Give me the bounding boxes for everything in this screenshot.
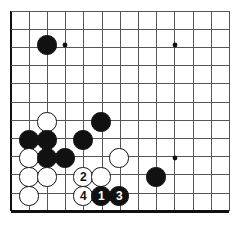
stone-move-number: 1 xyxy=(98,189,104,201)
black-move-1: 1 xyxy=(91,186,110,205)
black-stone-upper-left xyxy=(37,35,56,54)
stone-move-number: 3 xyxy=(116,189,122,201)
stone-move-number: 2 xyxy=(80,170,86,182)
black-stone-b xyxy=(19,130,38,149)
go-board-diagram: 2413 xyxy=(0,0,237,226)
white-move-2: 2 xyxy=(73,167,92,186)
black-stone-f xyxy=(37,148,56,167)
stone-layer: 2413 xyxy=(0,0,237,226)
white-stone-i xyxy=(19,167,38,186)
black-stone-d xyxy=(73,130,92,149)
black-stone-g xyxy=(55,148,74,167)
white-stone-a xyxy=(37,112,56,131)
white-move-4: 4 xyxy=(73,186,92,205)
stone-move-number: 4 xyxy=(80,189,86,201)
white-stone-k xyxy=(91,167,110,186)
black-stone-c xyxy=(37,130,56,149)
white-stone-l xyxy=(19,186,38,205)
black-stone-center xyxy=(91,112,110,131)
white-stone-j xyxy=(37,167,56,186)
white-stone-e xyxy=(19,148,38,167)
white-stone-h xyxy=(109,148,128,167)
black-stone-lower-right xyxy=(146,167,165,186)
black-move-3: 3 xyxy=(109,186,128,205)
